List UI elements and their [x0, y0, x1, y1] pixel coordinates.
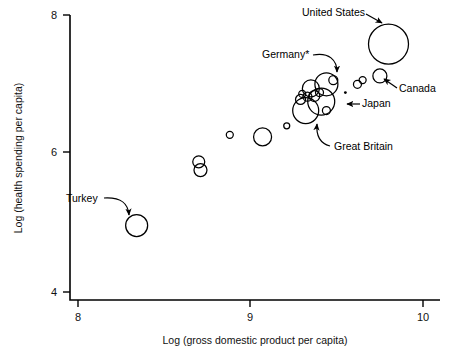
data-point-turkey	[126, 215, 148, 237]
axis-lines	[70, 15, 440, 300]
annotation-label-turkey: Turkey	[66, 192, 98, 204]
x-tick-label-8: 8	[75, 311, 81, 323]
x-tick-label-9: 9	[247, 311, 253, 323]
leader-canada	[384, 79, 397, 88]
annotation-label-canada: Canada	[399, 82, 436, 94]
annotation-leaders-group	[104, 14, 397, 215]
data-point	[226, 131, 233, 138]
leader-united-states	[366, 14, 382, 23]
y-tick-label-8: 8	[51, 9, 57, 21]
data-point-canada	[373, 69, 387, 83]
annotation-labels-group: United StatesGermany*CanadaJapanGreat Br…	[66, 6, 436, 204]
annotation-label-united-states: United States	[302, 6, 365, 18]
plot-canvas: 8 6 4 8 9 10 Log (gross domestic product…	[0, 0, 450, 354]
data-point	[254, 128, 272, 146]
data-point-united-states	[369, 24, 409, 64]
y-tick-label-4: 4	[51, 286, 57, 298]
data-point	[194, 164, 207, 177]
annotation-label-great-britain: Great Britain	[334, 140, 393, 152]
leader-turkey	[104, 198, 129, 215]
y-tick-label-6: 6	[51, 146, 57, 158]
y-axis-title: Log (health spending per capita)	[12, 83, 24, 234]
leader-germany	[313, 54, 337, 72]
leader-great-britain	[317, 124, 330, 146]
data-point	[344, 91, 347, 94]
data-point	[193, 156, 205, 168]
data-point	[353, 80, 361, 88]
annotation-label-germany: Germany*	[262, 48, 309, 60]
annotation-label-japan: Japan	[362, 97, 391, 109]
data-point	[284, 123, 290, 129]
x-axis-title: Log (gross domestic product per capita)	[162, 334, 347, 346]
data-point	[359, 77, 366, 84]
x-tick-label-10: 10	[417, 311, 429, 323]
scatter-plot-figure: 8 6 4 8 9 10 Log (gross domestic product…	[0, 0, 450, 354]
data-point	[329, 76, 338, 85]
